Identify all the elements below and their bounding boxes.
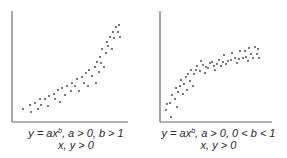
data-point: [81, 76, 83, 78]
left-caption-equation: y = axb, a > 0, b > 1: [12, 127, 140, 139]
data-point: [95, 82, 97, 84]
data-point: [177, 91, 179, 93]
data-point: [174, 98, 176, 100]
data-point: [256, 53, 258, 55]
right-caption-domain: x, y > 0: [150, 139, 287, 151]
data-point: [112, 31, 114, 33]
eq-conditions: , a > 0, 0 < b < 1: [195, 127, 275, 139]
data-point: [214, 69, 216, 71]
data-point: [99, 56, 101, 58]
right-data-points: [165, 46, 260, 118]
data-point: [165, 109, 167, 111]
data-point: [195, 69, 197, 71]
data-point: [244, 50, 246, 52]
data-point: [39, 98, 41, 100]
data-point: [248, 47, 250, 49]
left-data-points: [22, 24, 121, 113]
data-point: [29, 104, 31, 106]
data-point: [118, 24, 120, 26]
domain-text: x, y > 0: [201, 139, 237, 151]
data-point: [230, 59, 232, 61]
right-caption: y = axb, a > 0, 0 < b < 1 x, y > 0: [150, 127, 287, 151]
data-point: [204, 72, 206, 74]
data-point: [115, 26, 117, 28]
data-point: [185, 76, 187, 78]
data-point: [88, 69, 90, 71]
data-point: [176, 106, 178, 108]
data-point: [225, 63, 227, 65]
data-point: [103, 66, 105, 68]
data-point: [202, 64, 204, 66]
data-point: [257, 48, 259, 50]
data-point: [70, 90, 72, 92]
data-point: [209, 62, 211, 64]
right-chart: [160, 11, 272, 122]
data-point: [170, 116, 172, 118]
data-point: [117, 31, 119, 33]
data-point: [187, 73, 189, 75]
data-point: [94, 66, 96, 68]
data-point: [218, 59, 220, 61]
data-point: [236, 62, 238, 64]
data-point: [66, 85, 68, 87]
data-point: [245, 56, 247, 58]
data-point: [234, 57, 236, 59]
data-point: [91, 75, 93, 77]
data-point: [216, 63, 218, 65]
data-point: [40, 104, 42, 106]
left-caption: y = axb, a > 0, b > 1 x, y > 0: [12, 127, 140, 151]
data-point: [199, 70, 201, 72]
data-point: [100, 62, 102, 64]
data-point: [238, 58, 240, 60]
data-point: [186, 89, 188, 91]
data-point: [106, 41, 108, 43]
data-point: [57, 89, 59, 91]
data-point: [74, 85, 76, 87]
data-point: [179, 85, 181, 87]
domain-text: x, y > 0: [58, 139, 94, 151]
data-point: [220, 65, 222, 67]
data-point: [64, 94, 66, 96]
data-point: [83, 82, 85, 84]
data-point: [200, 60, 202, 62]
data-point: [169, 102, 171, 104]
data-point: [189, 80, 191, 82]
left-chart: [12, 11, 128, 122]
data-point: [211, 61, 213, 63]
data-point: [48, 95, 50, 97]
data-point: [182, 93, 184, 95]
data-point: [250, 53, 252, 55]
data-point: [61, 87, 63, 89]
data-point: [213, 65, 215, 67]
data-point: [53, 93, 55, 95]
data-point: [107, 45, 109, 47]
data-point: [252, 57, 254, 59]
data-point: [76, 78, 78, 80]
data-point: [223, 54, 225, 56]
data-point: [166, 103, 168, 105]
data-point: [98, 71, 100, 73]
data-point: [193, 73, 195, 75]
data-point: [192, 85, 194, 87]
data-point: [37, 108, 39, 110]
data-point: [254, 46, 256, 48]
data-point: [109, 36, 111, 38]
data-point: [196, 65, 198, 67]
data-point: [227, 60, 229, 62]
data-point: [171, 94, 173, 96]
data-point: [96, 61, 98, 63]
data-point: [222, 61, 224, 63]
data-point: [190, 69, 192, 71]
data-point: [101, 48, 103, 50]
data-point: [247, 60, 249, 62]
data-point: [105, 52, 107, 54]
data-point: [111, 48, 113, 50]
data-point: [242, 57, 244, 59]
data-point: [119, 36, 121, 38]
data-point: [44, 98, 46, 100]
data-point: [239, 50, 241, 52]
data-point: [87, 85, 89, 87]
data-point: [180, 79, 182, 81]
data-point: [205, 66, 207, 68]
data-point: [59, 101, 61, 103]
